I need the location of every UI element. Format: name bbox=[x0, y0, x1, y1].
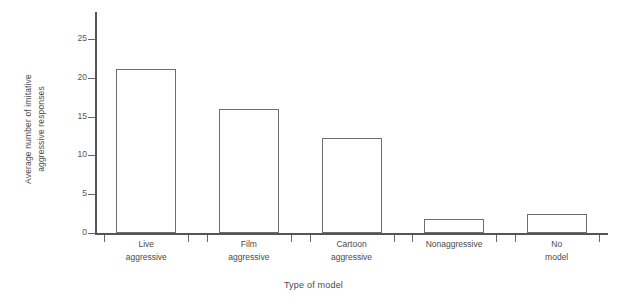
y-tick-label-25: 25 bbox=[63, 34, 87, 43]
x-category-label-line: aggressive bbox=[96, 251, 196, 264]
y-axis-title-line-1: Average number of imitative bbox=[22, 29, 35, 229]
y-tick-5 bbox=[88, 194, 95, 195]
x-category-label-2: Cartoonaggressive bbox=[302, 238, 402, 263]
bar-4 bbox=[527, 214, 587, 233]
y-axis-title-line-2: aggressive responses bbox=[35, 29, 48, 229]
y-tick-20 bbox=[88, 78, 95, 79]
y-tick-25 bbox=[88, 39, 95, 40]
bar-3 bbox=[424, 219, 484, 233]
y-tick-label-0: 0 bbox=[63, 228, 87, 237]
x-axis-title: Type of model bbox=[0, 280, 627, 290]
y-tick-label-15: 15 bbox=[63, 112, 87, 121]
x-category-label-3: Nonaggressive bbox=[404, 238, 504, 251]
x-category-label-line: Nonaggressive bbox=[404, 238, 504, 251]
y-axis-title: Average number of imitative aggressive r… bbox=[22, 29, 54, 229]
y-tick-10 bbox=[88, 155, 95, 156]
bar-1 bbox=[219, 109, 279, 233]
bar-0 bbox=[116, 69, 176, 233]
y-axis-line bbox=[95, 12, 97, 235]
x-category-label-line: aggressive bbox=[302, 251, 402, 264]
x-category-label-line: No bbox=[507, 238, 607, 251]
y-tick-label-5: 5 bbox=[63, 189, 87, 198]
y-tick-label-10: 10 bbox=[63, 150, 87, 159]
bar-2 bbox=[322, 138, 382, 233]
x-category-label-1: Filmaggressive bbox=[199, 238, 299, 263]
x-category-label-line: Live bbox=[96, 238, 196, 251]
x-axis-line bbox=[95, 233, 608, 235]
bar-chart-figure: Average number of imitative aggressive r… bbox=[0, 0, 627, 305]
x-category-label-4: Nomodel bbox=[507, 238, 607, 263]
y-tick-label-20: 20 bbox=[63, 73, 87, 82]
x-category-label-line: aggressive bbox=[199, 251, 299, 264]
x-category-label-line: model bbox=[507, 251, 607, 264]
x-category-label-line: Film bbox=[199, 238, 299, 251]
plot-area: 0510152025 bbox=[95, 12, 608, 235]
x-category-label-line: Cartoon bbox=[302, 238, 402, 251]
y-tick-0 bbox=[88, 233, 95, 234]
y-tick-15 bbox=[88, 117, 95, 118]
x-category-label-0: Liveaggressive bbox=[96, 238, 196, 263]
